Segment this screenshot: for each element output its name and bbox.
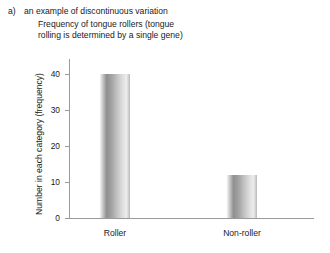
y-tick-mark (65, 74, 69, 75)
y-tick-mark (65, 146, 69, 147)
x-axis-line (69, 218, 314, 219)
y-tick-label: 40 (34, 70, 60, 78)
x-tick-label-roller: Roller (75, 228, 155, 238)
y-tick-label: 10 (34, 178, 60, 186)
y-tick-mark (65, 218, 69, 219)
bar-chart: Number in each category (frequency) 0 10… (0, 0, 330, 253)
bar-non-roller (227, 175, 257, 218)
bar-roller (100, 74, 130, 218)
y-tick-label: 30 (34, 106, 60, 114)
y-tick-label: 0 (34, 214, 60, 222)
y-tick-label: 20 (34, 142, 60, 150)
y-tick-mark (65, 110, 69, 111)
y-axis-line (69, 59, 70, 219)
x-tick-label-non-roller: Non-roller (202, 228, 282, 238)
y-tick-mark (65, 182, 69, 183)
